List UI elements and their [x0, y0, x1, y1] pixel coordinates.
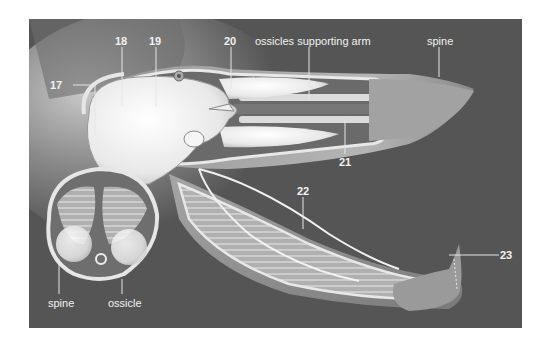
label-spine-top: spine — [427, 35, 453, 47]
label-19: 19 — [149, 35, 161, 47]
label-20: 20 — [224, 35, 236, 47]
label-18: 18 — [115, 35, 127, 47]
label-21: 21 — [339, 156, 351, 168]
label-ossicles-supporting-arm: ossicles supporting arm — [255, 35, 371, 47]
label-22: 22 — [297, 185, 309, 197]
label-23: 23 — [500, 249, 512, 261]
diagram-panel: 17 18 19 20 ossicles supporting arm spin… — [29, 19, 522, 328]
label-ossicle: ossicle — [108, 297, 142, 309]
sea-star-illustration — [29, 19, 522, 328]
label-17: 17 — [50, 79, 62, 91]
label-spine-bottom: spine — [48, 297, 74, 309]
